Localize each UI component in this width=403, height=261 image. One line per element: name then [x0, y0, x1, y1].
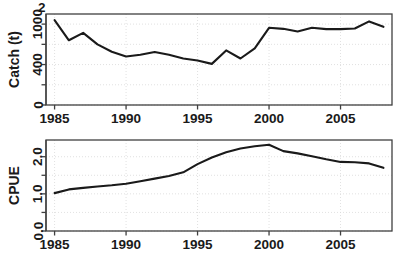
cpue-plot: 0.01.02.019851990199520002005CPUE: [0, 130, 403, 261]
y-tick-label: 1.0: [31, 184, 46, 203]
x-tick-label: 1990: [111, 237, 141, 252]
y-axis-title: CPUE: [6, 166, 22, 205]
y-tick-label: 2.0: [31, 147, 46, 166]
panel-catch: 0400100019851990199520002005Catch (t): [0, 0, 403, 130]
x-tick-label: 2005: [326, 237, 357, 252]
x-tick-label: 1995: [183, 237, 214, 252]
plot-frame: [46, 14, 392, 105]
x-tick-label: 1990: [111, 111, 141, 126]
y-tick-label: 0: [31, 101, 46, 109]
y-tick-label: 400: [31, 53, 46, 76]
figure-two-panel-catch-cpue: 2 0400100019851990199520002005Catch (t) …: [0, 0, 403, 261]
y-tick-label: 1000: [31, 9, 46, 39]
x-tick-label: 2000: [254, 237, 284, 252]
x-tick-label: 2000: [254, 111, 284, 126]
x-tick-label: 1985: [40, 111, 71, 126]
panel-cpue: 0.01.02.019851990199520002005CPUE: [0, 130, 403, 261]
data-line-cpue: [55, 145, 384, 193]
data-line-catch: [55, 20, 384, 64]
x-tick-label: 1985: [40, 237, 71, 252]
y-axis-title: Catch (t): [6, 31, 22, 88]
x-tick-label: 2005: [326, 111, 357, 126]
catch-plot: 0400100019851990199520002005Catch (t): [0, 0, 403, 130]
x-tick-label: 1995: [183, 111, 214, 126]
